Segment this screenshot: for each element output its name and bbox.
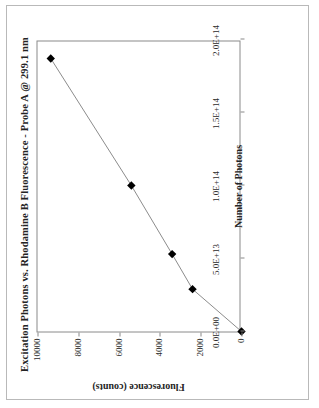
data-point	[46, 54, 54, 62]
x-axis-label: Number of Photons	[232, 40, 243, 332]
data-point	[167, 249, 175, 257]
y-tick	[159, 332, 160, 336]
y-tick	[37, 332, 38, 336]
x-tick	[240, 38, 244, 39]
x-tick-label: 1.0E+14	[210, 171, 220, 202]
y-tick	[119, 332, 120, 336]
x-tick-label: 1.5E+14	[210, 98, 220, 129]
y-tick-label: 0	[235, 338, 245, 343]
chart-title: Excitation Photons vs. Rhodamine B Fluor…	[18, 0, 29, 408]
y-tick-label: 8000	[72, 338, 82, 356]
y-tick	[78, 332, 79, 336]
plot-area	[36, 40, 240, 332]
x-tick-label: 5.0E+13	[210, 244, 220, 275]
y-tick	[241, 332, 242, 336]
x-tick-label: 2.0E+14	[210, 25, 220, 56]
y-axis-label: Fluorescence (counts)	[36, 381, 240, 392]
y-tick-label: 4000	[153, 338, 163, 356]
x-tick-label: 0.0E+00	[210, 317, 220, 348]
chart-figure: Excitation Photons vs. Rhodamine B Fluor…	[0, 0, 319, 408]
figure-page: Excitation Photons vs. Rhodamine B Fluor…	[0, 0, 319, 408]
y-tick-label: 10000	[31, 338, 41, 361]
data-point	[127, 181, 135, 189]
y-tick-label: 6000	[113, 338, 123, 356]
rotated-figure-container: Excitation Photons vs. Rhodamine B Fluor…	[0, 0, 319, 408]
y-tick-label: 2000	[194, 338, 204, 356]
y-tick	[200, 332, 201, 336]
